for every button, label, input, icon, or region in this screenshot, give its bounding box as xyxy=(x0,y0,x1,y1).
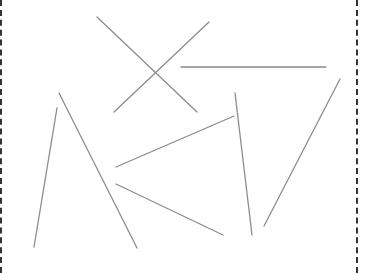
line-segment-d xyxy=(59,93,137,248)
line-segment-e xyxy=(34,108,57,247)
line-segment-f xyxy=(116,116,234,167)
line-segment-i xyxy=(264,79,340,226)
segment-group xyxy=(34,17,340,248)
line-segment-a xyxy=(97,17,197,112)
line-segment-g xyxy=(116,184,223,235)
line-segment-h xyxy=(235,93,252,235)
line-segments-canvas xyxy=(0,0,369,273)
